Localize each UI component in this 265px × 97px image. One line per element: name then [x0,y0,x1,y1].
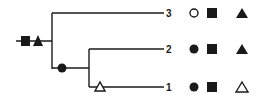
filled-square-icon [207,82,217,92]
filled-circle-icon [190,45,199,54]
filled-circle-icon [190,83,199,92]
filled-square-icon [207,44,217,54]
open-triangle-icon [236,82,248,92]
filled-triangle-icon [236,8,248,18]
cladogram: 3 2 1 [0,0,265,97]
taxon-label-2: 2 [166,44,172,55]
taxon-label-3: 3 [166,8,172,19]
open-circle-icon [190,9,198,17]
filled-circle-icon [58,64,67,73]
filled-square-icon [21,36,30,46]
filled-square-icon [207,8,217,18]
taxon-label-1: 1 [166,82,172,93]
filled-triangle-icon [236,44,248,54]
